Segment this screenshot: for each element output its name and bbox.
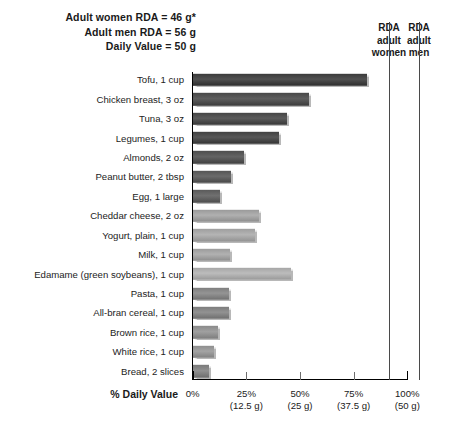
bar[interactable] [193,248,231,260]
rda-note-3: Daily Value = 50 g [0,39,196,54]
bar-track [190,303,449,322]
bar[interactable] [193,268,292,280]
bar-track [190,245,449,264]
bar-track [190,128,449,147]
bar[interactable] [193,326,219,338]
bar-label: White rice, 1 cup [0,346,190,357]
bar-row: Pasta, 1 cup [0,284,449,303]
bar[interactable] [193,365,209,377]
x-axis-labels: % Daily Value 0%25%(12.5 g)50%(25 g)75%(… [0,385,449,428]
chart-header: Adult women RDA = 46 g*Adult men RDA = 5… [0,0,449,70]
bar-track [190,187,449,206]
bar-track [190,109,449,128]
bar-track [190,148,449,167]
bar[interactable] [193,171,232,183]
x-tick [300,372,301,380]
bar-label: Edamame (green soybeans), 1 cup [0,269,190,280]
bar[interactable] [193,307,229,319]
bar-track [190,264,449,283]
x-tick-grams: (50 g) [372,400,442,412]
bar-track [190,342,449,361]
x-tick [193,371,194,380]
bar-row: Cheddar cheese, 2 oz [0,206,449,225]
reference-line [419,22,420,380]
bar-label: Pasta, 1 cup [0,288,190,299]
bar-row: Edamame (green soybeans), 1 cup [0,264,449,283]
bar-row: Yogurt, plain, 1 cup [0,226,449,245]
bar-label: Egg, 1 large [0,191,190,202]
rda-note-2: Adult men RDA = 56 g [0,25,196,40]
bar[interactable] [193,151,245,163]
x-tick-percent: 100% [372,388,442,400]
bar-row: Tofu, 1 cup [0,70,449,89]
y-axis-line [192,72,193,379]
bar-track [190,284,449,303]
bar-track [190,70,449,89]
bar[interactable] [193,74,367,86]
bar-row: All-bran cereal, 1 cup [0,303,449,322]
bar-track [190,323,449,342]
bar-track [190,206,449,225]
bar-label: Legumes, 1 cup [0,133,190,144]
bar-row: Brown rice, 1 cup [0,323,449,342]
x-tick-label: 100%(50 g) [372,388,442,411]
bar-label: Brown rice, 1 cup [0,327,190,338]
bar-track [190,167,449,186]
bar-row: Legumes, 1 cup [0,128,449,147]
x-tick [407,371,408,380]
bar-rows: Tofu, 1 cupChicken breast, 3 ozTuna, 3 o… [0,70,449,381]
bar[interactable] [193,229,255,241]
bar-label: Bread, 2 slices [0,366,190,377]
plot-area: Tofu, 1 cupChicken breast, 3 ozTuna, 3 o… [0,70,449,385]
bar-row: Peanut butter, 2 tbsp [0,167,449,186]
bar-track [190,89,449,108]
rda-note-1: Adult women RDA = 46 g* [0,10,196,25]
x-tick [246,372,247,380]
bar-row: Egg, 1 large [0,187,449,206]
bar[interactable] [193,132,279,144]
bar[interactable] [193,346,214,358]
bar-label: Almonds, 2 oz [0,152,190,163]
x-axis-title: % Daily Value [0,388,178,400]
bar-label: Milk, 1 cup [0,249,190,260]
bar-label: Cheddar cheese, 2 oz [0,210,190,221]
bar-label: Peanut butter, 2 tbsp [0,171,190,182]
bar-label: Yogurt, plain, 1 cup [0,230,190,241]
x-tick [354,372,355,380]
bar-row: Tuna, 3 oz [0,109,449,128]
bar[interactable] [193,287,229,299]
bar-row: Almonds, 2 oz [0,148,449,167]
reference-line [389,22,390,380]
rda-notes: Adult women RDA = 46 g*Adult men RDA = 5… [0,10,196,54]
bar-row: White rice, 1 cup [0,342,449,361]
bar-label: All-bran cereal, 1 cup [0,307,190,318]
bar-label: Tofu, 1 cup [0,74,190,85]
bar[interactable] [193,112,287,124]
bar[interactable] [193,93,309,105]
bar-label: Chicken breast, 3 oz [0,94,190,105]
bar[interactable] [193,210,260,222]
bar[interactable] [193,190,220,202]
bar-row: Chicken breast, 3 oz [0,89,449,108]
bar-label: Tuna, 3 oz [0,113,190,124]
bar-track [190,226,449,245]
bar-row: Milk, 1 cup [0,245,449,264]
